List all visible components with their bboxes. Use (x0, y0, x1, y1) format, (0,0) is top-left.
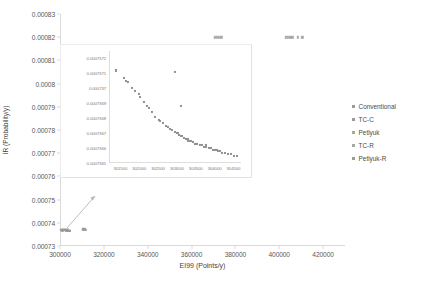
inset-panel: 0.00073720.00073710.0007370.00073690.000… (60, 44, 252, 178)
legend-item-tc-c[interactable]: TC-C (352, 113, 432, 126)
inset-data-point (139, 96, 141, 98)
inset-x-tick-label: 301500 (113, 166, 127, 171)
y-axis-title: IR (Probability/y) (2, 106, 9, 155)
legend-item-label: Petlyuk-R (359, 155, 387, 162)
inset-data-point (180, 105, 182, 107)
legend-item-petlyuk[interactable]: Petlyuk (352, 126, 432, 139)
y-tick-label: 0.00081 (32, 57, 55, 64)
data-point (291, 36, 293, 38)
legend-item-label: Conventional (359, 103, 396, 110)
inset-x-axis-line (109, 162, 241, 163)
inset-x-tick-label: 302500 (151, 166, 165, 171)
y-tick-mark (57, 37, 60, 38)
inset-data-point (134, 90, 136, 92)
y-tick-mark (57, 14, 60, 15)
data-point (301, 36, 303, 38)
inset-x-tick-label: 303000 (170, 166, 184, 171)
legend-item-tc-r[interactable]: TC-R (352, 139, 432, 152)
y-tick-label: 0.00073 (32, 243, 55, 250)
inset-data-point (138, 93, 140, 95)
inset-data-point (205, 144, 207, 146)
x-tick-mark (103, 246, 104, 249)
legend-item-petlyuk-r[interactable]: Petlyuk-R (352, 152, 432, 165)
y-tick-label: 0.00077 (32, 150, 55, 157)
data-point (84, 228, 86, 230)
legend-marker-icon (352, 105, 355, 108)
legend-marker-icon (352, 131, 355, 134)
inset-y-tick-label: 0.0007365 (87, 161, 106, 166)
inset-data-point (123, 77, 125, 79)
x-axis-title: EI99 (Points/y) (60, 262, 345, 269)
inset-data-point (131, 87, 133, 89)
x-tick-label: 400000 (269, 251, 290, 258)
inset-data-point (227, 153, 229, 155)
legend-item-label: Petlyuk (359, 129, 380, 136)
inset-data-point (159, 120, 161, 122)
inset-data-point (162, 122, 164, 124)
inset-y-tick-label: 0.0007369 (87, 101, 106, 106)
inset-data-point (186, 138, 188, 140)
x-tick-mark (323, 246, 324, 249)
y-tick-label: 0.00078 (32, 127, 55, 134)
y-tick-mark (57, 222, 60, 223)
x-tick-mark (235, 246, 236, 249)
legend-marker-icon (352, 144, 355, 147)
inset-data-point (224, 151, 226, 153)
x-tick-label: 360000 (181, 251, 202, 258)
inset-data-point (148, 107, 150, 109)
inset-y-tick-label: 0.0007367 (87, 131, 106, 136)
x-tick-mark (147, 246, 148, 249)
data-point (62, 229, 64, 231)
legend: ConventionalTC-CPetlyukTC-RPetlyuk-R (352, 100, 432, 165)
y-tick-mark (57, 199, 60, 200)
inset-y-tick-label: 0.0007372 (87, 56, 106, 61)
inset-data-point (143, 101, 145, 103)
legend-item-conventional[interactable]: Conventional (352, 100, 432, 113)
x-tick-mark (60, 246, 61, 249)
inset-y-tick-label: 0.0007371 (87, 71, 106, 76)
x-tick-label: 420000 (312, 251, 333, 258)
y-tick-label: 0.00082 (32, 34, 55, 41)
data-point (69, 230, 71, 232)
inset-y-tick-label: 0.0007366 (87, 146, 106, 151)
y-tick-label: 0.00083 (32, 11, 55, 18)
inset-data-point (151, 111, 153, 113)
x-tick-mark (279, 246, 280, 249)
inset-y-axis-line (109, 51, 110, 163)
y-tick-label: 0.0008 (35, 80, 55, 87)
inset-x-tick-label: 303500 (189, 166, 203, 171)
inset-data-point (177, 132, 179, 134)
x-tick-label: 320000 (93, 251, 114, 258)
y-tick-label: 0.00075 (32, 196, 55, 203)
scatter-chart: 0.000730.000740.000750.000760.000770.000… (0, 0, 434, 283)
legend-marker-icon (352, 157, 355, 160)
y-tick-label: 0.00079 (32, 103, 55, 110)
legend-item-label: TC-C (359, 116, 374, 123)
inset-plot-area: 0.00073720.00073710.0007370.00073690.000… (109, 51, 241, 163)
x-tick-mark (191, 246, 192, 249)
inset-x-tick-label: 304500 (227, 166, 241, 171)
inset-data-point (171, 129, 173, 131)
data-point (220, 36, 222, 38)
inset-data-point (236, 154, 238, 156)
inset-data-point (115, 69, 117, 71)
inset-data-point (221, 151, 223, 153)
inset-data-point (127, 81, 129, 83)
legend-marker-icon (352, 118, 355, 121)
inset-data-point (233, 154, 235, 156)
legend-item-label: TC-R (359, 142, 374, 149)
x-tick-label: 380000 (225, 251, 246, 258)
inset-data-point (215, 149, 217, 151)
x-tick-label: 340000 (137, 251, 158, 258)
y-tick-label: 0.00076 (32, 173, 55, 180)
inset-data-point (230, 153, 232, 155)
inset-data-point (195, 143, 197, 145)
inset-data-point (154, 116, 156, 118)
inset-x-tick-label: 304000 (208, 166, 222, 171)
inset-data-point (174, 71, 176, 73)
inset-x-tick-label: 302000 (132, 166, 146, 171)
inset-y-tick-label: 0.000737 (89, 86, 106, 91)
x-tick-label: 300000 (49, 251, 70, 258)
inset-y-tick-label: 0.0007368 (87, 116, 106, 121)
y-tick-label: 0.00074 (32, 219, 55, 226)
